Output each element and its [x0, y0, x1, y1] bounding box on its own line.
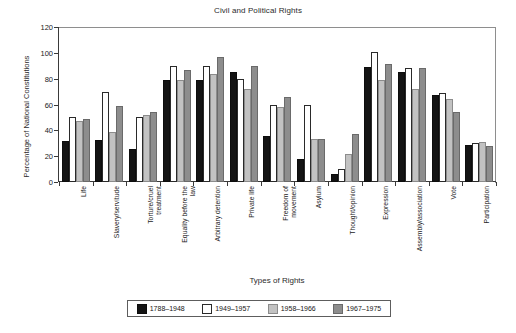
bar — [184, 70, 191, 182]
bar — [69, 117, 76, 182]
x-axis-category-label: Expression — [382, 186, 390, 272]
x-axis-category-label: Life — [80, 186, 88, 272]
bar — [270, 105, 277, 183]
y-axis-tick-mark — [54, 53, 58, 54]
x-axis-category-label: Private life — [248, 186, 256, 272]
x-axis-category-label: Arbitrary detention — [214, 186, 222, 272]
bar — [345, 154, 352, 182]
x-axis-category-label: Thought/opinion — [349, 186, 357, 272]
y-axis-tick-mark — [54, 27, 58, 28]
bar — [352, 134, 359, 182]
bar — [297, 159, 304, 182]
y-axis-tick-label: 100 — [0, 48, 58, 57]
bar — [432, 95, 439, 182]
y-axis-tick-label: 20 — [0, 152, 58, 161]
bar — [177, 80, 184, 182]
bar-group — [429, 27, 463, 182]
bar — [371, 52, 378, 182]
x-axis-category-label: Participation — [483, 186, 491, 272]
x-axis-category-labels: LifeSlavery/servitudeTorture/cruel treat… — [59, 186, 496, 272]
bar — [129, 149, 136, 182]
bar — [102, 92, 109, 182]
bar — [338, 169, 345, 182]
chart-title: Civil and Political Rights — [0, 6, 516, 15]
bar — [486, 146, 493, 182]
bar — [62, 141, 69, 182]
bar — [210, 74, 217, 183]
bar-group — [160, 27, 194, 182]
chart-container: Civil and Political Rights Percentage of… — [0, 0, 516, 333]
bar — [318, 139, 325, 182]
bar-group — [59, 27, 93, 182]
x-axis-category-label: Asylum — [315, 186, 323, 272]
bar — [446, 99, 453, 182]
y-axis-tick-mark — [54, 105, 58, 106]
bar — [217, 57, 224, 182]
legend-swatch — [268, 304, 278, 314]
legend-label: 1967–1975 — [346, 305, 381, 312]
y-axis-tick-label: 120 — [0, 23, 58, 32]
bar — [331, 174, 338, 182]
bar-group — [462, 27, 496, 182]
legend-item[interactable]: 1958–1966 — [268, 304, 316, 314]
legend-item[interactable]: 1949–1957 — [202, 304, 250, 314]
bar-group — [93, 27, 127, 182]
y-axis-tick-mark — [54, 79, 58, 80]
bar — [263, 136, 270, 183]
bar — [385, 64, 392, 182]
x-axis-category-label: Vote — [450, 186, 458, 272]
bar-group — [361, 27, 395, 182]
bar — [378, 80, 385, 182]
bar — [244, 89, 251, 182]
bar — [170, 66, 177, 182]
bar — [251, 66, 258, 182]
x-axis-category-label: Assembly/association — [416, 186, 424, 272]
legend-swatch — [333, 304, 343, 314]
x-axis-category-label: Equality before the law — [181, 186, 197, 272]
legend-label: 1958–1966 — [281, 305, 316, 312]
bar — [83, 119, 90, 182]
bar — [237, 79, 244, 182]
bar — [136, 117, 143, 182]
legend-item[interactable]: 1788–1948 — [137, 304, 185, 314]
chart-legend: 1788–19481949–19571958–19661967–1975 — [127, 300, 391, 317]
y-axis-tick-label: 0 — [0, 178, 58, 187]
legend-label: 1949–1957 — [215, 305, 250, 312]
legend-item[interactable]: 1967–1975 — [333, 304, 381, 314]
bar — [311, 139, 318, 182]
y-axis-tick-mark — [54, 156, 58, 157]
bar — [472, 143, 479, 182]
bar — [109, 132, 116, 182]
bar — [284, 97, 291, 182]
bar — [412, 89, 419, 182]
bar — [277, 107, 284, 182]
y-axis-tick-label: 40 — [0, 126, 58, 135]
bar — [143, 115, 150, 182]
bar-group — [193, 27, 227, 182]
bar — [453, 112, 460, 182]
bar-group — [261, 27, 295, 182]
bar-group — [126, 27, 160, 182]
bar — [419, 68, 426, 182]
bar-groups — [59, 27, 496, 182]
bar — [116, 106, 123, 182]
x-axis-category-label: Slavery/servitude — [113, 186, 121, 272]
bar — [150, 112, 157, 182]
bar — [398, 72, 405, 182]
bar — [203, 66, 210, 182]
bar — [405, 68, 412, 182]
y-axis-tick-mark — [54, 130, 58, 131]
legend-swatch — [137, 304, 147, 314]
bar — [76, 121, 83, 182]
y-axis-label: Percentage of National Constitutions — [22, 37, 31, 197]
x-axis-category-label: Torture/cruel treatment — [147, 186, 163, 272]
x-axis-tick-mark — [496, 182, 497, 186]
bar-group — [395, 27, 429, 182]
legend-label: 1788–1948 — [150, 305, 185, 312]
x-axis-label: Types of Rights — [58, 276, 496, 285]
bar — [479, 142, 486, 182]
bar — [95, 140, 102, 182]
bar — [163, 80, 170, 182]
bar — [465, 145, 472, 182]
bar — [304, 105, 311, 183]
